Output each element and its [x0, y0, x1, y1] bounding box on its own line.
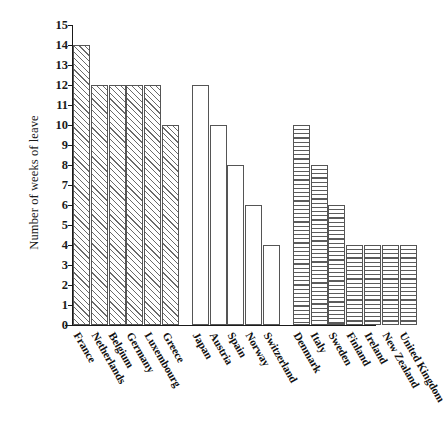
bar: [210, 125, 227, 325]
bar: [126, 85, 143, 325]
bar: [162, 125, 179, 325]
bar: [245, 205, 262, 325]
bar: [382, 245, 399, 325]
bar: [311, 165, 328, 325]
bar: [73, 45, 90, 325]
bar: [91, 85, 108, 325]
bar: [346, 245, 363, 325]
bar: [144, 85, 161, 325]
bar: [263, 245, 280, 325]
bar: [293, 125, 310, 325]
bar: [400, 245, 417, 325]
bar: [364, 245, 381, 325]
bar: [192, 85, 209, 325]
bar: [109, 85, 126, 325]
bar: [227, 165, 244, 325]
bar: [328, 205, 345, 325]
